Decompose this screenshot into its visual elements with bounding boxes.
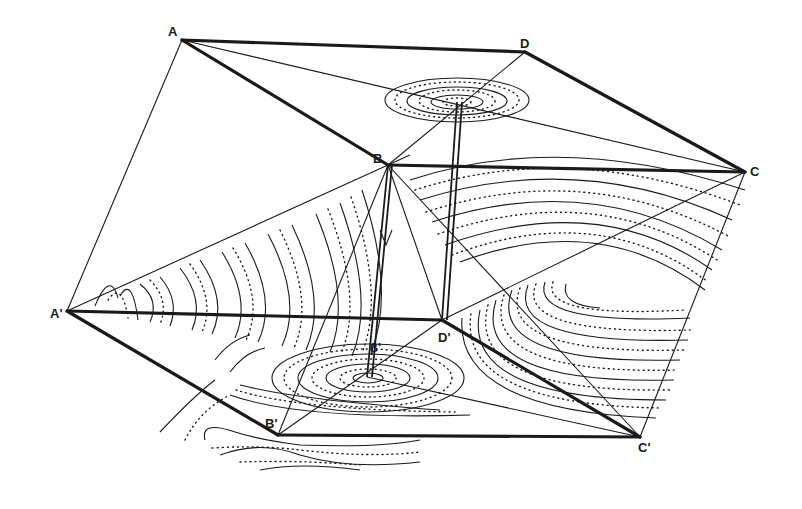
right-upper-face-contours — [410, 157, 745, 290]
top-center-contours — [385, 78, 529, 122]
label-C-prime: C' — [638, 440, 650, 455]
thick-edges — [67, 40, 745, 437]
label-D: D — [520, 36, 529, 51]
left-face-contours — [95, 190, 381, 356]
label-D-prime: D' — [438, 330, 450, 345]
label-C: C — [750, 164, 760, 179]
label-B-prime: B' — [265, 416, 277, 431]
projection-diagram: A D B C A' D' β' B' C' — [0, 0, 802, 509]
bottom-center-contours — [230, 344, 470, 416]
label-beta-prime: β' — [370, 340, 381, 355]
label-B: B — [373, 151, 382, 166]
construction-lines — [67, 40, 745, 437]
label-A: A — [168, 24, 178, 39]
label-A-prime: A' — [50, 306, 62, 321]
ground-contours — [160, 335, 420, 470]
